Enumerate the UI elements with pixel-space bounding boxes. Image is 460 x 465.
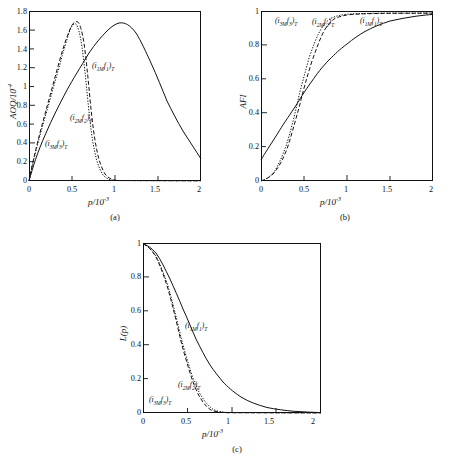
panel-b-xlabel: p/10-3 [320,196,341,207]
panel-b-plot [261,11,433,181]
panel-a: AOQ/10-4 0 0.2 0.4 0.6 0.8 1 1.2 1.4 1.6… [0,0,230,230]
panel-a-xlabel: p/10-3 [88,196,109,207]
panel-a-curve-dashed [29,22,201,181]
panel-b-caption: (b) [230,212,460,222]
figure-three-panel: AOQ/10-4 0 0.2 0.4 0.6 0.8 1 1.2 1.4 1.6… [0,0,460,465]
panel-a-caption: (a) [0,212,230,222]
panel-b-curve-solid [261,14,433,160]
panel-b: AFI 0 0.2 0.4 0.6 0.8 1 0 0.5 1 1.5 2 p/… [230,0,460,230]
panel-c-xlabel: p/10-3 [202,428,223,439]
panel-c: L(p) 0 0.2 0.4 0.6 0.8 1 0 0.5 1 1.5 2 p… [112,232,362,465]
panel-a-plot [29,11,201,181]
panel-b-curve-dashed [261,13,433,181]
panel-c-curve-solid [143,244,321,413]
panel-c-curve-dotted [143,244,321,413]
panel-b-curve-dotted [261,13,433,181]
panel-c-caption: (c) [112,444,362,454]
panel-b-ylabel: AFI [237,76,248,128]
panel-a-curve-solid [29,23,201,181]
panel-c-plot [143,243,321,413]
panel-a-curve-dotted [29,24,201,181]
panel-c-curve-dashed [143,244,321,413]
